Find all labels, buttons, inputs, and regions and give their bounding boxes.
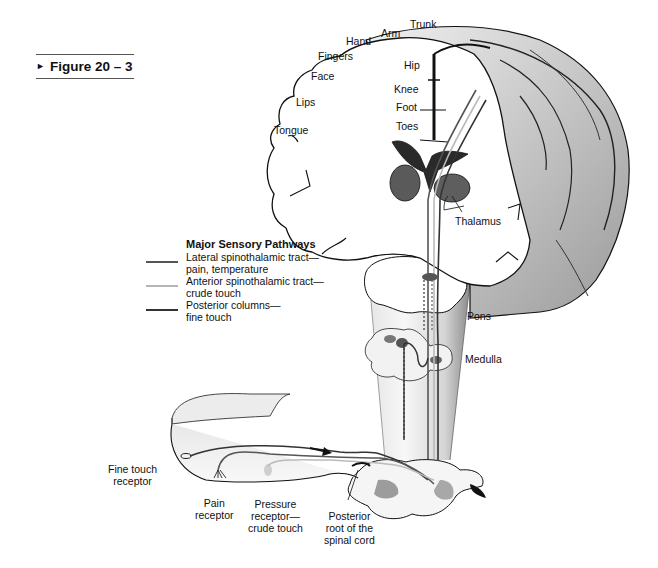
label-hand: Hand	[346, 35, 371, 47]
label-hip: Hip	[404, 59, 420, 71]
label-pain-receptor: Pain receptor	[195, 497, 234, 521]
label-lips: Lips	[296, 96, 315, 108]
legend-item-lateral-spinothalamic: Lateral spinothalamic tract— pain, tempe…	[150, 252, 324, 275]
label-foot: Foot	[396, 101, 417, 113]
label-posterior-root: Posterior root of the spinal cord	[324, 510, 375, 546]
label-thalamus: Thalamus	[455, 215, 501, 227]
label-pressure-receptor: Pressure receptor— crude touch	[248, 498, 303, 534]
legend-swatch	[146, 285, 178, 287]
legend: Major Sensory Pathways Lateral spinothal…	[186, 238, 324, 324]
legend-title: Major Sensory Pathways	[186, 238, 324, 250]
sensory-pathway-illustration	[0, 0, 658, 568]
label-pons: Pons	[467, 310, 491, 322]
label-fingers: Fingers	[318, 50, 353, 62]
legend-item-posterior-columns: Posterior columns— fine touch	[150, 300, 324, 323]
label-medulla: Medulla	[465, 353, 502, 365]
legend-swatch	[146, 309, 178, 311]
label-knee: Knee	[394, 83, 419, 95]
label-trunk: Trunk	[410, 18, 436, 30]
label-toes: Toes	[396, 120, 418, 132]
label-arm: Arm	[381, 27, 400, 39]
label-face: Face	[311, 70, 334, 82]
legend-swatch	[146, 261, 178, 263]
label-tongue: Tongue	[274, 124, 308, 136]
label-fine-touch-receptor: Fine touch receptor	[108, 463, 157, 487]
legend-item-anterior-spinothalamic: Anterior spinothalamic tract— crude touc…	[150, 276, 324, 299]
